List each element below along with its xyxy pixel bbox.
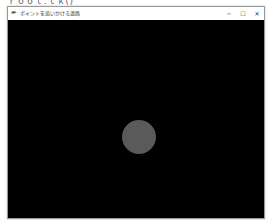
maximize-button[interactable]: ☐: [236, 7, 250, 20]
window-controls: ─ ☐ ✕: [222, 7, 264, 20]
minimize-icon: ─: [227, 7, 231, 20]
window-title: ポイントを追いかける迷路: [20, 7, 80, 20]
app-window: ✒ ポイントを追いかける迷路 ─ ☐ ✕: [7, 6, 265, 219]
close-icon: ✕: [254, 7, 259, 20]
title-bar[interactable]: ✒ ポイントを追いかける迷路 ─ ☐ ✕: [8, 7, 264, 20]
maximize-icon: ☐: [240, 7, 245, 20]
feather-icon: ✒: [11, 10, 17, 17]
close-button[interactable]: ✕: [250, 7, 264, 20]
game-canvas[interactable]: [8, 20, 264, 218]
ball: [122, 120, 156, 154]
minimize-button[interactable]: ─: [222, 7, 236, 20]
